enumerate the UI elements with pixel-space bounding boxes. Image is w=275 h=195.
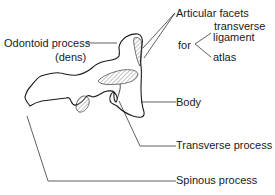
label-dens: (dens) — [55, 51, 86, 63]
label-body: Body — [176, 96, 201, 108]
leader-transverse-process — [119, 101, 176, 146]
label-odontoid-process: Odontoid process — [4, 37, 90, 49]
label-transverse-process: Transverse process — [176, 139, 272, 151]
label-articular-facets: Articular facets — [176, 7, 249, 19]
bracket-for — [195, 33, 211, 57]
leader-articular-2 — [144, 13, 175, 58]
label-for: for — [178, 39, 191, 51]
leader-articular-1 — [143, 13, 175, 48]
label-atlas: atlas — [213, 51, 236, 63]
label-spinous-process: Spinous process — [176, 174, 257, 186]
label-ligament: ligament — [213, 31, 255, 43]
bone-inner-contour — [117, 84, 120, 99]
facet-transverse-ligament — [134, 37, 142, 66]
facet-inferior — [76, 96, 89, 112]
facet-atlas — [98, 70, 138, 85]
leader-spinous-process — [27, 116, 176, 181]
